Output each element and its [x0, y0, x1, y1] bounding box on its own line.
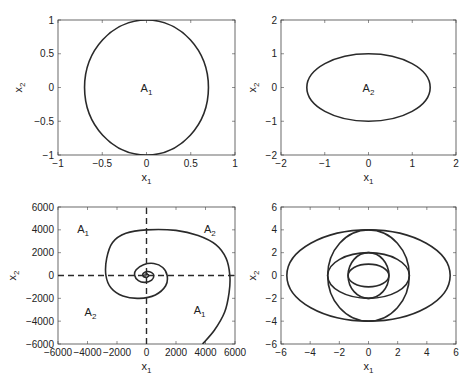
x-tick-label: 0.5	[184, 158, 198, 169]
y-tick-label: −2	[266, 150, 278, 161]
y-tick-label: 2	[271, 247, 277, 258]
y-axis-label: x2	[6, 270, 21, 281]
plot-area	[287, 230, 450, 321]
y-tick-label: 0	[271, 270, 277, 281]
y-tick-label: −4	[266, 316, 278, 327]
x-axis-label: x1	[364, 360, 375, 375]
y-tick-label: 6	[271, 202, 277, 213]
y-tick-label: 2	[271, 15, 277, 26]
y-tick-label: 0.5	[40, 48, 54, 59]
y-tick-label: −4000	[26, 316, 55, 327]
spiral-trajectory-curve	[106, 230, 231, 344]
y-tick-label: 0	[48, 82, 54, 93]
y-tick-label: 1	[48, 15, 54, 26]
y-tick-label: 0	[48, 270, 54, 281]
region-label: A1	[194, 304, 206, 319]
x-tick-label: 0	[144, 347, 150, 358]
region-label: A1	[141, 82, 153, 97]
ellipse-inner-curve	[348, 264, 389, 287]
x-tick-label: −2	[334, 347, 346, 358]
x-tick-label: −1	[52, 158, 64, 169]
y-axis-label: x2	[12, 82, 27, 93]
y-tick-label: 6000	[32, 202, 55, 213]
y-tick-label: −6000	[26, 339, 55, 350]
x-tick-label: 1	[409, 158, 415, 169]
y-tick-label: −2000	[26, 293, 55, 304]
x-tick-label: 6	[453, 347, 459, 358]
ellipse-outer-curve	[287, 230, 450, 321]
y-axis-label: x2	[246, 270, 261, 281]
y-tick-label: −0.5	[34, 116, 54, 127]
y-tick-label: −1	[266, 116, 278, 127]
x-tick-label: 0	[144, 158, 150, 169]
x-tick-label: 6000	[224, 347, 247, 358]
subplot-top-left: −1−0.500.51−1−0.500.51x1x2A1	[12, 15, 239, 187]
x-tick-label: 4000	[194, 347, 217, 358]
x-tick-label: 0	[366, 158, 372, 169]
region-label: A2	[85, 306, 97, 321]
subplot-bottom-left: −6000−4000−20000200040006000−6000−4000−2…	[6, 202, 247, 376]
x-tick-label: −4000	[73, 347, 102, 358]
x-tick-label: 2	[453, 158, 459, 169]
ellipse-mid-curve	[328, 253, 410, 299]
x-axis-label: x1	[142, 171, 153, 186]
region-label: A1	[77, 223, 89, 238]
x-tick-label: −6	[275, 347, 287, 358]
region-label: A2	[363, 82, 375, 97]
y-axis-label: x2	[246, 82, 261, 93]
x-axis-label: x1	[364, 171, 375, 186]
x-tick-label: −1	[319, 158, 331, 169]
x-tick-label: 2000	[165, 347, 188, 358]
x-tick-label: −4	[304, 347, 316, 358]
region-label: A2	[204, 223, 216, 238]
x-tick-label: −2000	[103, 347, 132, 358]
y-tick-label: 4	[271, 224, 277, 235]
y-tick-label: 1	[271, 48, 277, 59]
subplot-bottom-right: −6−4−20246−6−4−20246x1x2	[246, 202, 459, 376]
y-tick-label: −2	[266, 293, 278, 304]
x-axis-label: x1	[142, 360, 153, 375]
x-tick-label: 0	[366, 347, 372, 358]
circle-small-curve	[348, 253, 389, 299]
figure: −1−0.500.51−1−0.500.51x1x2A1 −2−1012−2−1…	[0, 0, 473, 387]
y-tick-label: −6	[266, 339, 278, 350]
y-tick-label: 2000	[32, 247, 55, 258]
subplot-top-right: −2−1012−2−1012x1x2A2	[246, 15, 459, 187]
x-tick-label: 1	[232, 158, 238, 169]
x-tick-label: −2	[275, 158, 287, 169]
y-tick-label: 4000	[32, 224, 55, 235]
x-tick-label: −0.5	[92, 158, 112, 169]
y-tick-label: −1	[43, 150, 55, 161]
x-tick-label: 2	[395, 347, 401, 358]
x-tick-label: 4	[424, 347, 430, 358]
y-tick-label: 0	[271, 82, 277, 93]
axes-box	[281, 207, 456, 344]
circle-large-curve	[328, 230, 410, 321]
